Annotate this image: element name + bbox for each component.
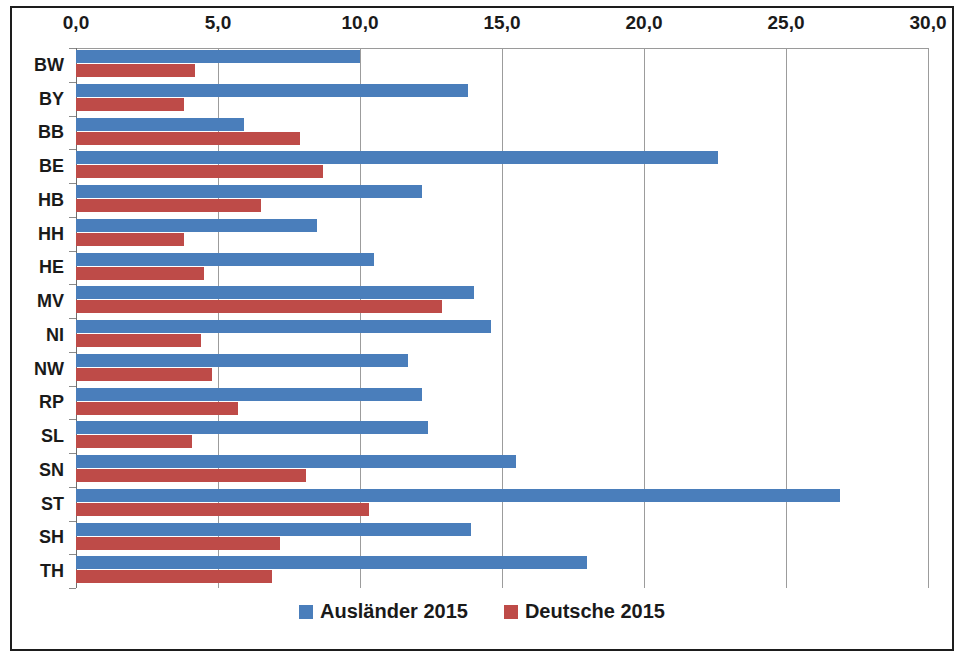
plot-area bbox=[76, 48, 928, 588]
y-tick-label-TH: TH bbox=[40, 561, 64, 582]
bar-group-NW bbox=[76, 352, 928, 386]
bar-HE-auslaender bbox=[76, 253, 374, 266]
bar-group-ST bbox=[76, 487, 928, 521]
y-tick-mark-4 bbox=[69, 183, 76, 184]
bar-HB-deutsche bbox=[76, 199, 261, 212]
y-tick-label-SL: SL bbox=[41, 426, 64, 447]
bar-MV-auslaender bbox=[76, 286, 474, 299]
bar-TH-deutsche bbox=[76, 570, 272, 583]
legend-item-1[interactable]: Deutsche 2015 bbox=[504, 600, 665, 623]
bar-group-HH bbox=[76, 217, 928, 251]
y-tick-mark-12 bbox=[69, 453, 76, 454]
bar-group-BB bbox=[76, 116, 928, 150]
x-tick-label-5: 25,0 bbox=[768, 12, 805, 34]
y-tick-mark-end bbox=[69, 588, 76, 589]
y-tick-label-SN: SN bbox=[39, 459, 64, 480]
y-tick-mark-10 bbox=[69, 386, 76, 387]
y-tick-mark-14 bbox=[69, 521, 76, 522]
x-tick-label-4: 20,0 bbox=[626, 12, 663, 34]
y-tick-label-HE: HE bbox=[39, 257, 64, 278]
legend-item-0[interactable]: Ausländer 2015 bbox=[299, 600, 468, 623]
bar-group-TH bbox=[76, 554, 928, 588]
bar-BE-deutsche bbox=[76, 165, 323, 178]
bar-group-HE bbox=[76, 251, 928, 285]
x-tick-label-1: 5,0 bbox=[205, 12, 231, 34]
bar-HE-deutsche bbox=[76, 267, 204, 280]
bar-BB-auslaender bbox=[76, 118, 244, 131]
y-tick-mark-13 bbox=[69, 487, 76, 488]
x-tick-label-2: 10,0 bbox=[342, 12, 379, 34]
y-tick-mark-9 bbox=[69, 352, 76, 353]
y-tick-label-BB: BB bbox=[38, 122, 64, 143]
y-tick-label-HH: HH bbox=[38, 223, 64, 244]
bar-SN-deutsche bbox=[76, 469, 306, 482]
x-tick-label-0: 0,0 bbox=[63, 12, 89, 34]
y-tick-mark-15 bbox=[69, 554, 76, 555]
bar-NW-deutsche bbox=[76, 368, 212, 381]
bar-group-SN bbox=[76, 453, 928, 487]
x-tick-label-6: 30,0 bbox=[910, 12, 947, 34]
x-axis-tick-labels: 0,05,010,015,020,025,030,0 bbox=[12, 8, 952, 44]
bar-group-BW bbox=[76, 48, 928, 82]
y-tick-label-BY: BY bbox=[39, 88, 64, 109]
bar-group-RP bbox=[76, 386, 928, 420]
bar-group-HB bbox=[76, 183, 928, 217]
y-tick-mark-0 bbox=[69, 48, 76, 49]
y-axis-tick-labels: BWBYBBBEHBHHHEMVNINWRPSLSNSTSHTH bbox=[12, 48, 76, 588]
bar-NI-deutsche bbox=[76, 334, 201, 347]
bar-SL-deutsche bbox=[76, 435, 192, 448]
y-tick-mark-6 bbox=[69, 251, 76, 252]
y-tick-mark-8 bbox=[69, 318, 76, 319]
y-tick-mark-2 bbox=[69, 116, 76, 117]
legend-label-1: Deutsche 2015 bbox=[525, 600, 665, 623]
bar-MV-deutsche bbox=[76, 300, 442, 313]
y-tick-label-BE: BE bbox=[39, 156, 64, 177]
y-tick-mark-11 bbox=[69, 419, 76, 420]
bar-BW-deutsche bbox=[76, 64, 195, 77]
chart-legend: Ausländer 2015Deutsche 2015 bbox=[12, 600, 952, 623]
bar-SN-auslaender bbox=[76, 455, 516, 468]
bar-RP-auslaender bbox=[76, 388, 422, 401]
bar-BY-auslaender bbox=[76, 84, 468, 97]
bar-group-BE bbox=[76, 149, 928, 183]
y-tick-mark-5 bbox=[69, 217, 76, 218]
y-tick-mark-3 bbox=[69, 149, 76, 150]
bar-ST-deutsche bbox=[76, 503, 369, 516]
legend-swatch-deutsche bbox=[504, 605, 518, 619]
y-tick-label-ST: ST bbox=[41, 493, 64, 514]
bar-BB-deutsche bbox=[76, 132, 300, 145]
bar-SH-deutsche bbox=[76, 537, 280, 550]
bar-BE-auslaender bbox=[76, 151, 718, 164]
bar-group-MV bbox=[76, 284, 928, 318]
bar-HH-auslaender bbox=[76, 219, 317, 232]
y-tick-label-SH: SH bbox=[39, 527, 64, 548]
bar-SL-auslaender bbox=[76, 421, 428, 434]
chart-frame: 0,05,010,015,020,025,030,0 BWBYBBBEHBHHH… bbox=[10, 6, 954, 651]
bar-RP-deutsche bbox=[76, 402, 238, 415]
y-tick-label-MV: MV bbox=[37, 291, 64, 312]
x-tick-label-3: 15,0 bbox=[484, 12, 521, 34]
bar-NI-auslaender bbox=[76, 320, 491, 333]
bar-HB-auslaender bbox=[76, 185, 422, 198]
bar-NW-auslaender bbox=[76, 354, 408, 367]
y-tick-label-BW: BW bbox=[34, 54, 64, 75]
y-tick-mark-1 bbox=[69, 82, 76, 83]
bar-ST-auslaender bbox=[76, 489, 840, 502]
gridline-6 bbox=[928, 48, 929, 588]
bar-group-NI bbox=[76, 318, 928, 352]
bar-SH-auslaender bbox=[76, 523, 471, 536]
y-tick-label-HB: HB bbox=[38, 189, 64, 210]
bar-group-BY bbox=[76, 82, 928, 116]
y-tick-label-NI: NI bbox=[46, 324, 64, 345]
y-tick-mark-7 bbox=[69, 284, 76, 285]
bar-BW-auslaender bbox=[76, 50, 360, 63]
bar-BY-deutsche bbox=[76, 98, 184, 111]
bar-TH-auslaender bbox=[76, 556, 587, 569]
legend-swatch-auslaender bbox=[299, 605, 313, 619]
legend-label-0: Ausländer 2015 bbox=[320, 600, 468, 623]
bar-group-SL bbox=[76, 419, 928, 453]
bar-HH-deutsche bbox=[76, 233, 184, 246]
bar-group-SH bbox=[76, 521, 928, 555]
y-tick-label-RP: RP bbox=[39, 392, 64, 413]
y-tick-label-NW: NW bbox=[34, 358, 64, 379]
